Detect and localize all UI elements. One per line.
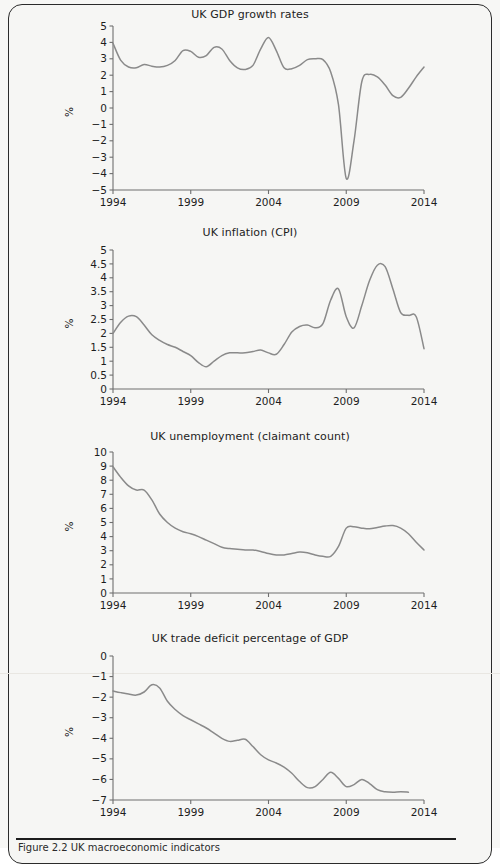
y-tick-label: 2 (100, 327, 107, 339)
x-tick-label: 2004 (255, 395, 282, 407)
x-tick-label: 1999 (177, 806, 204, 818)
y-tick-label: 9 (100, 460, 107, 472)
y-tick-label: −4 (92, 732, 108, 744)
y-tick-label: 3 (100, 52, 107, 64)
y-tick-label: 1 (100, 85, 107, 97)
chart-panel-trade-deficit: UK trade deficit percentage of GDP −7−6−… (0, 632, 500, 832)
y-tick-label: 10 (94, 446, 107, 458)
y-tick-label: −5 (92, 752, 107, 764)
chart-svg-unemployment: 01234567891019941999200420092014% (0, 430, 500, 625)
x-tick-label: 2004 (255, 806, 282, 818)
y-tick-label: 0 (100, 587, 107, 599)
y-tick-label: 0 (100, 650, 107, 662)
y-tick-label: 1 (100, 355, 107, 367)
x-tick-label: 2004 (255, 599, 282, 611)
series-line (113, 685, 408, 793)
y-tick-label: 0 (100, 383, 107, 395)
y-axis-name: % (63, 107, 75, 117)
y-tick-label: 4 (100, 271, 107, 283)
x-tick-label: 2014 (411, 599, 438, 611)
y-tick-label: −4 (92, 167, 108, 179)
y-tick-label: 5 (100, 20, 107, 32)
y-axis-name: % (63, 521, 75, 531)
y-tick-label: −2 (92, 691, 107, 703)
chart-title-gdp: UK GDP growth rates (0, 8, 500, 21)
y-tick-label: 5 (100, 516, 107, 528)
x-tick-label: 2009 (333, 806, 360, 818)
chart-panel-inflation: UK inflation (CPI) 00.511.522.533.544.55… (0, 226, 500, 421)
x-tick-label: 2014 (411, 806, 438, 818)
chart-title-inflation: UK inflation (CPI) (0, 226, 500, 239)
y-tick-label: −3 (92, 151, 107, 163)
y-tick-label: −7 (92, 794, 107, 806)
y-tick-label: 6 (100, 502, 107, 514)
y-tick-label: −5 (92, 184, 107, 196)
y-tick-label: −6 (92, 773, 108, 785)
y-tick-label: 2 (100, 558, 107, 570)
chart-svg-trade-deficit: −7−6−5−4−3−2−1019941999200420092014% (0, 632, 500, 832)
y-tick-label: 5 (100, 244, 107, 256)
x-tick-label: 2009 (333, 196, 360, 208)
x-tick-label: 1994 (100, 599, 127, 611)
x-tick-label: 1994 (100, 196, 127, 208)
y-tick-label: −1 (92, 670, 107, 682)
chart-panel-unemployment: UK unemployment (claimant count) 0123456… (0, 430, 500, 625)
y-tick-label: −2 (92, 134, 107, 146)
caption-divider (16, 838, 456, 840)
chart-svg-gdp: −5−4−3−2−101234519941999200420092014% (0, 8, 500, 213)
x-tick-label: 1999 (177, 599, 204, 611)
y-tick-label: 0 (100, 102, 107, 114)
y-tick-label: −1 (92, 118, 107, 130)
y-axis-name: % (63, 727, 75, 737)
x-tick-label: 1999 (177, 196, 204, 208)
x-tick-label: 1994 (100, 395, 127, 407)
chart-title-unemployment: UK unemployment (claimant count) (0, 430, 500, 443)
figure-caption: Figure 2.2 UK macroeconomic indicators (18, 842, 468, 853)
y-tick-label: 3 (100, 544, 107, 556)
y-tick-label: −3 (92, 711, 107, 723)
x-tick-label: 2014 (411, 196, 438, 208)
y-tick-label: 2.5 (90, 313, 107, 325)
x-tick-label: 2009 (333, 599, 360, 611)
y-tick-label: 3 (100, 299, 107, 311)
y-tick-label: 4.5 (90, 258, 107, 270)
chart-svg-inflation: 00.511.522.533.544.551994199920042009201… (0, 226, 500, 421)
x-tick-label: 2009 (333, 395, 360, 407)
chart-panel-gdp: UK GDP growth rates −5−4−3−2−10123451994… (0, 8, 500, 213)
y-tick-label: 4 (100, 36, 107, 48)
series-line (113, 264, 424, 367)
y-tick-label: 8 (100, 474, 107, 486)
y-tick-label: 2 (100, 69, 107, 81)
y-tick-label: 7 (100, 488, 107, 500)
y-tick-label: 1 (100, 573, 107, 585)
y-tick-label: 4 (100, 530, 107, 542)
y-tick-label: 1.5 (90, 341, 107, 353)
series-line (113, 467, 424, 557)
series-line (113, 37, 424, 179)
y-tick-label: 3.5 (90, 285, 107, 297)
y-tick-label: 0.5 (90, 369, 107, 381)
x-tick-label: 2014 (411, 395, 438, 407)
x-tick-label: 2004 (255, 196, 282, 208)
y-axis-name: % (63, 318, 75, 328)
x-tick-label: 1994 (100, 806, 127, 818)
x-tick-label: 1999 (177, 395, 204, 407)
chart-title-trade-deficit: UK trade deficit percentage of GDP (0, 632, 500, 645)
